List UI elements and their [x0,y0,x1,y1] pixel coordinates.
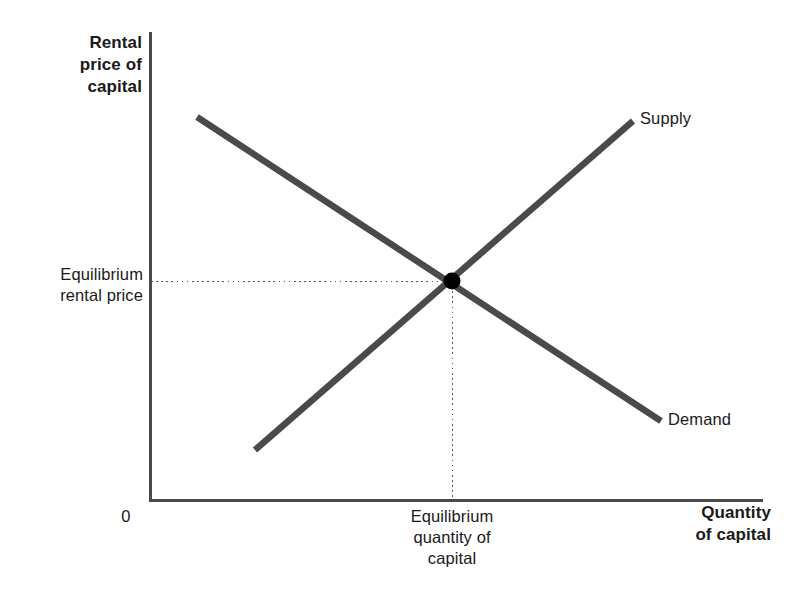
supply-curve [255,121,633,450]
equilibrium-point-marker [444,273,461,290]
y-axis-label: Rental price of capital [0,32,142,97]
demand-curve [197,117,661,421]
supply-curve-label: Supply [640,108,691,129]
supply-demand-diagram: Rental price of capital Equilibrium rent… [0,0,808,603]
x-axis-label: Quantity of capital [591,502,771,546]
equilibrium-rental-price-label: Equilibrium rental price [0,264,143,306]
equilibrium-quantity-label: Equilibrium quantity of capital [352,506,552,569]
origin-label: 0 [112,506,140,527]
demand-curve-label: Demand [668,409,731,430]
